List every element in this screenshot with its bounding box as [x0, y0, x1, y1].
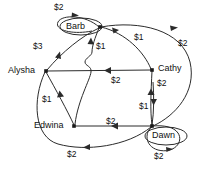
edge-weight-dawn-cathy-a: $2: [157, 79, 166, 88]
edge-cathy-alysha-arrowhead: [104, 67, 111, 74]
graph-diagram-canvas: Alysha Barb Cathy Dawn Edwina $2 $3 $1 $…: [0, 0, 206, 169]
edge-dawn-alysha-path: [37, 72, 151, 147]
edge-cathy-barb-path: [101, 27, 151, 69]
vertex-dot-cathy: [150, 68, 154, 72]
node-label-cathy: Cathy: [158, 64, 182, 73]
edge-weight-cathy-barb: $1: [134, 33, 143, 42]
edge-barb-alysha-arrowhead: [55, 52, 61, 60]
edge-cathy-alysha-path: [47, 70, 151, 71]
edge-weight-edwina-alysha: $1: [42, 95, 51, 104]
vertex-dot-alysha: [44, 69, 48, 73]
vertex-dot-dawn: [150, 124, 154, 128]
edge-barb-dawn-arrowhead: [170, 26, 178, 32]
edge-dawn-alysha: [37, 72, 151, 150]
graph-svg: [0, 0, 206, 169]
edge-weight-dawn-cathy-b: $1: [139, 102, 148, 111]
edge-weight-dawn-alysha: $2: [67, 150, 76, 159]
edge-weight-dawn-edwina: $2: [106, 117, 115, 126]
node-label-edwina: Edwina: [34, 121, 64, 130]
vertex-dot-edwina: [72, 124, 76, 128]
edge-weight-barb-dawn: $2: [178, 39, 187, 48]
edge-weight-cathy-alysha: $2: [111, 76, 120, 85]
edge-weight-barb-alysha: $3: [33, 42, 42, 51]
edge-edwina-barb-arrowhead: [88, 38, 95, 45]
vertex-dot-barb: [98, 25, 102, 29]
edge-weight-dawn-dawn: $2: [154, 152, 163, 161]
edge-weight-barb-barb: $2: [54, 3, 63, 12]
edge-cathy-alysha: [47, 67, 151, 74]
edge-cathy-barb: [101, 27, 151, 69]
edge-dawn-cathy-a-path: [151, 71, 152, 125]
node-label-alysha: Alysha: [8, 66, 35, 75]
edge-dawn-alysha-arrowhead: [83, 144, 90, 150]
node-label-dawn: Dawn: [152, 131, 175, 140]
edge-weight-edwina-barb: $1: [96, 42, 105, 51]
node-label-barb: Barb: [66, 22, 85, 31]
